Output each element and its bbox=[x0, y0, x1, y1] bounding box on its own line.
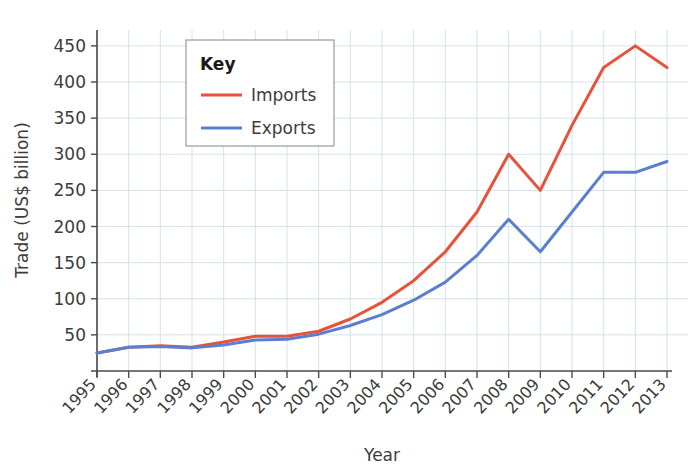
y-tick-label: 200 bbox=[54, 217, 86, 237]
legend-label-imports: Imports bbox=[251, 85, 316, 105]
y-tick-label: 350 bbox=[54, 108, 86, 128]
x-tick-label: 1995 bbox=[58, 375, 100, 418]
trade-line-chart: 50100150200250300350400450 1995199619971… bbox=[0, 0, 694, 476]
x-tick-label: 1996 bbox=[90, 375, 132, 418]
x-tick-label: 2002 bbox=[280, 375, 322, 418]
y-tick-label: 150 bbox=[54, 253, 86, 273]
y-tick-labels: 50100150200250300350400450 bbox=[54, 36, 86, 345]
x-tick-label: 1998 bbox=[153, 375, 195, 418]
y-tick-label: 250 bbox=[54, 180, 86, 200]
x-tick-label: 2012 bbox=[597, 375, 639, 418]
legend: Key Imports Exports bbox=[186, 40, 334, 146]
x-tick-label: 1999 bbox=[185, 375, 227, 418]
x-tick-label: 2003 bbox=[312, 375, 354, 418]
y-axis-title: Trade (US$ billion) bbox=[12, 122, 32, 279]
x-tick-label: 2005 bbox=[375, 375, 417, 418]
chart-canvas: 50100150200250300350400450 1995199619971… bbox=[0, 0, 694, 476]
y-tick-label: 400 bbox=[54, 72, 86, 92]
x-tick-label: 2010 bbox=[533, 375, 575, 418]
x-tick-label: 2001 bbox=[248, 375, 290, 418]
x-tick-label: 2006 bbox=[407, 375, 449, 418]
x-tick-label: 2009 bbox=[502, 375, 544, 418]
x-tick-label: 2007 bbox=[438, 375, 480, 418]
legend-label-exports: Exports bbox=[251, 118, 316, 138]
y-tick-label: 450 bbox=[54, 36, 86, 56]
x-axis-title: Year bbox=[363, 445, 400, 465]
x-tick-label: 2000 bbox=[217, 375, 259, 418]
x-tick-label: 2013 bbox=[628, 375, 670, 418]
x-tick-label: 2004 bbox=[343, 375, 385, 418]
x-tick-label: 1997 bbox=[122, 375, 164, 418]
y-axis bbox=[91, 30, 97, 377]
x-tick-label: 2011 bbox=[565, 375, 607, 418]
y-tick-label: 300 bbox=[54, 144, 86, 164]
x-tick-label: 2008 bbox=[470, 375, 512, 418]
x-tick-labels: 1995199619971998199920002001200220032004… bbox=[58, 375, 670, 418]
y-tick-label: 50 bbox=[64, 325, 86, 345]
legend-title: Key bbox=[200, 54, 236, 74]
y-tick-label: 100 bbox=[54, 289, 86, 309]
